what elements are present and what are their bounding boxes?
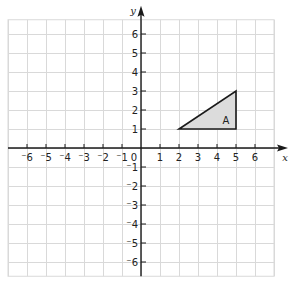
x-tick-label: 6 <box>252 152 258 163</box>
x-tick-label: ⁻3 <box>78 152 90 163</box>
y-tick-label: ⁻3 <box>126 200 138 211</box>
y-tick-label: ⁻5 <box>126 238 138 249</box>
x-tick-label: 4 <box>214 152 220 163</box>
y-tick-label: ⁻6 <box>126 257 138 268</box>
x-tick-label: ⁻5 <box>40 152 52 163</box>
origin-label: 0 <box>131 152 137 163</box>
y-tick-label: 3 <box>132 86 138 97</box>
x-tick-label: 1 <box>157 152 163 163</box>
y-tick-label: 2 <box>132 105 138 116</box>
y-tick-label: ⁻2 <box>126 181 138 192</box>
x-tick-label: ⁻4 <box>59 152 71 163</box>
y-axis-label: y <box>129 5 136 16</box>
x-tick-label: 3 <box>195 152 201 163</box>
x-axis-label: x <box>282 152 288 163</box>
x-tick-label: ⁻6 <box>21 152 33 163</box>
y-tick-label: 6 <box>132 29 138 40</box>
x-tick-label: 2 <box>176 152 182 163</box>
y-tick-label: ⁻4 <box>126 219 138 230</box>
y-tick-label: 1 <box>132 124 138 135</box>
y-tick-label: 5 <box>132 48 138 59</box>
x-tick-label: ⁻2 <box>97 152 109 163</box>
triangle-a-label: A <box>223 115 230 126</box>
coordinate-plane: A ⁻6⁻5⁻4⁻3⁻2⁻11234561⁻12⁻23⁻34⁻45⁻56⁻60x… <box>0 0 295 286</box>
x-tick-label: 5 <box>233 152 239 163</box>
y-tick-label: ⁻1 <box>126 162 138 173</box>
y-tick-label: 4 <box>132 67 138 78</box>
